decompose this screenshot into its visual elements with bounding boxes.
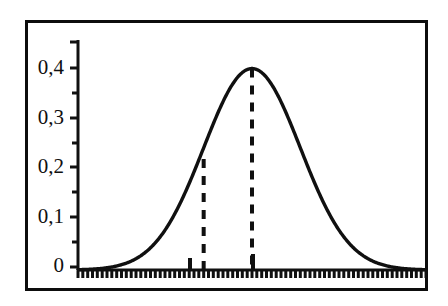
x-axis-major-ticks: [190, 254, 253, 271]
x-axis-minor-ticks: [78, 271, 426, 278]
plot-area: [0, 0, 448, 306]
figure-container: 0,4 0,3 0,2 0,1 0: [0, 0, 448, 306]
